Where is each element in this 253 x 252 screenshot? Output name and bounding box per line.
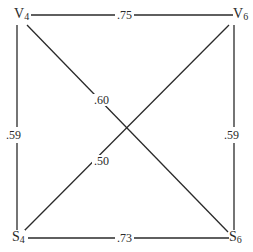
node-s6-letter: S xyxy=(229,229,237,244)
weight-v4-v6: .75 xyxy=(115,9,134,21)
node-s6: S6 xyxy=(229,230,242,245)
weight-v6-s4: .50 xyxy=(92,155,111,167)
node-v6-sub: 6 xyxy=(243,11,248,22)
edge-layer xyxy=(0,0,253,252)
node-v4-sub: 4 xyxy=(24,11,29,22)
node-v6-letter: V xyxy=(233,6,243,21)
correlation-diagram: V4 V6 S4 S6 .75 .59 .59 .73 .60 .50 xyxy=(0,0,253,252)
weight-v4-s4: .59 xyxy=(6,127,21,143)
node-s6-sub: 6 xyxy=(237,234,242,245)
node-v4-letter: V xyxy=(14,6,24,21)
weight-v4-s6: .60 xyxy=(92,94,111,106)
node-v6: V6 xyxy=(233,7,248,22)
node-s4: S4 xyxy=(12,230,25,245)
weight-s4-s6: .73 xyxy=(115,232,134,244)
node-v4: V4 xyxy=(14,7,29,22)
node-s4-sub: 4 xyxy=(20,234,25,245)
weight-v6-s6: .59 xyxy=(224,127,239,143)
node-s4-letter: S xyxy=(12,229,20,244)
